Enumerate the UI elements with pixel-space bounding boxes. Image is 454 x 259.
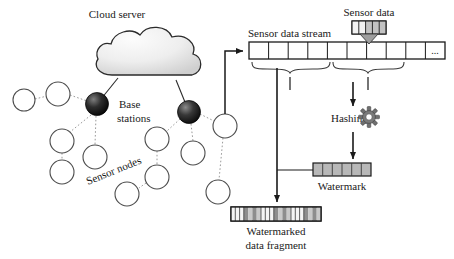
sensor-node-icon [145,127,169,151]
fragment-cell-dark [248,207,252,221]
sensor-data-stream-label: Sensor data stream [248,27,332,39]
sensor-node-icon [145,165,169,189]
sensor-node-icon [213,114,237,138]
sensor-node-icon [13,89,35,111]
fragment-cell-dark [287,207,291,221]
fragment-cell-dark [274,207,278,221]
figure-canvas: Cloud server Base stations Sensor nodes … [0,0,454,259]
watermark-row [313,163,371,176]
sensor-node-icon [83,145,107,169]
base-stations-label-line1: Base [119,98,141,110]
sensor-node-icon [46,82,70,106]
watermark-label: Watermark [318,180,367,192]
sensor-data-label: Sensor data [343,6,394,18]
fragment-cell-dark [244,207,248,221]
sensor-node-icon [115,182,139,206]
fragment-cell-dark [312,207,316,221]
fragment-cell-light [291,207,304,221]
gear-icon [359,107,380,128]
fragment-cell-dark [257,207,261,221]
sensor-node-icon [50,160,74,184]
cloud-server-label: Cloud server [89,8,146,20]
fragment-cell-dark [308,207,312,221]
fragment-cell-dark [282,207,286,221]
watermarked-fragment-row [231,207,321,221]
fragment-cell-dark [304,207,308,221]
sensor-node-icon [181,141,205,165]
watermarked-fragment-label-line1: Watermarked [247,225,306,237]
base-stations-label-line2: stations [117,112,151,124]
base-station-node-icon [86,93,109,116]
base-station-node-icon [178,101,201,124]
fragment-cell-dark [278,207,282,221]
fragment-cell-dark [252,207,256,221]
sensor-node-icon [206,180,230,204]
fragment-cell-light [231,207,244,221]
sensor-data-stream: ... [249,42,445,59]
sensor-data-cell-dark [366,21,386,34]
watermarked-fragment-label-line2: data fragment [246,239,307,251]
fragment-cell-light [261,207,274,221]
sensor-node-icon [50,129,74,153]
diagram-svg: Cloud server Base stations Sensor nodes … [0,0,454,259]
sensor-data-box [352,21,386,34]
stream-ellipsis-cell: ... [431,45,439,56]
